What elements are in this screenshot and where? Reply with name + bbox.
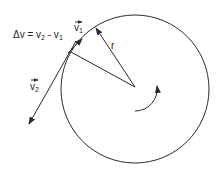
v2-label: v2 <box>30 80 39 93</box>
rotation-direction-icon <box>135 86 157 111</box>
orbit-circle <box>61 15 209 163</box>
v1-label: v1 <box>74 22 83 34</box>
v2-vector-arrow <box>29 41 76 124</box>
radius-line-v1 <box>96 28 135 87</box>
radius-line-v2 <box>71 52 135 87</box>
svg-text:v1: v1 <box>74 22 83 34</box>
radius-label: r <box>111 40 115 51</box>
svg-text:v2: v2 <box>30 81 39 93</box>
delta-v-equation: Δv = v2 - v1 <box>13 29 63 41</box>
circular-motion-diagram: Δv = v2 - v1 v1 v2 r <box>0 0 219 172</box>
